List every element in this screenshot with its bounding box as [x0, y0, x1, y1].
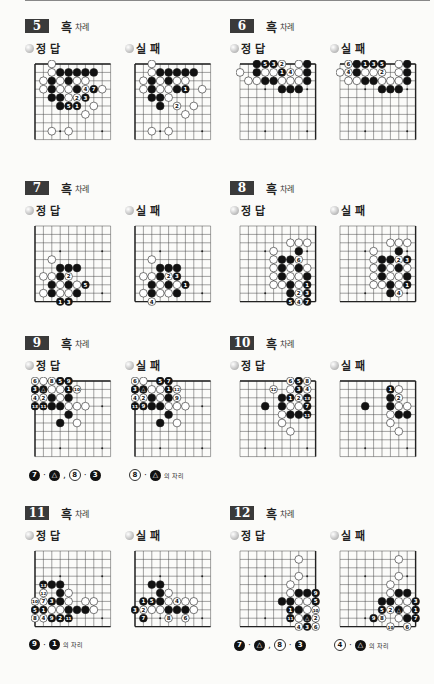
white-stone [286, 272, 294, 280]
black-stone [286, 256, 294, 264]
white-stone [286, 264, 294, 272]
correct-board: 53214 [236, 60, 320, 148]
black-stone: 1 [56, 298, 64, 306]
black-stone: 1 [412, 606, 420, 614]
go-board: 613542 [336, 60, 420, 144]
black-stone [56, 68, 64, 76]
svg-text:9: 9 [141, 403, 145, 409]
black-stone [48, 281, 56, 289]
svg-text:3: 3 [83, 95, 87, 101]
white-stone [148, 256, 156, 264]
svg-text:2: 2 [58, 615, 62, 621]
svg-text:3: 3 [305, 624, 309, 630]
note-suffix: 의 자리 [164, 471, 184, 480]
black-stone: 11 [131, 402, 139, 410]
white-stone [65, 85, 73, 93]
svg-text:5: 5 [380, 607, 384, 613]
white-stone [56, 77, 64, 85]
white-stone: 4 [395, 289, 403, 297]
black-stone: 9 [370, 614, 378, 622]
svg-text:5: 5 [67, 103, 71, 109]
black-stone: 3 [65, 298, 73, 306]
black-stone [303, 589, 311, 597]
fail-board: 12 [336, 377, 420, 465]
white-stone: 6 [286, 377, 294, 385]
white-stone [303, 606, 311, 614]
black-stone: 11 [39, 402, 47, 410]
black-stone: 7 [90, 85, 98, 93]
white-stone [295, 572, 303, 580]
white-stone [39, 377, 47, 385]
black-stone [295, 247, 303, 255]
white-stone [156, 85, 164, 93]
white-stone: 2 [139, 394, 147, 402]
black-stone [378, 597, 386, 605]
black-stone [148, 94, 156, 102]
black-stone [253, 60, 261, 68]
white-stone [295, 239, 303, 247]
white-stone [295, 272, 303, 280]
svg-text:3: 3 [67, 299, 71, 305]
white-stone [295, 614, 303, 622]
black-stone [65, 77, 73, 85]
white-stone [253, 77, 261, 85]
black-stone [148, 289, 156, 297]
white-stone [48, 385, 56, 393]
svg-text:5: 5 [288, 299, 292, 305]
white-stone [148, 385, 156, 393]
white-stone [244, 77, 252, 85]
white-stone: 4 [173, 597, 181, 605]
black-stone [403, 68, 411, 76]
white-stone: 12 [39, 589, 47, 597]
svg-text:8: 8 [305, 378, 309, 384]
bullet-ball-icon [25, 531, 34, 540]
black-stone: 7 [303, 402, 311, 410]
black-stone [386, 597, 394, 605]
black-stone-icon: △ [150, 470, 161, 481]
bullet-ball-icon [125, 361, 134, 370]
black-stone [395, 411, 403, 419]
white-stone [395, 77, 403, 85]
svg-text:7: 7 [41, 598, 45, 604]
black-stone-icon: 1 [49, 639, 60, 650]
svg-text:2: 2 [380, 69, 384, 75]
white-stone [48, 127, 56, 135]
white-stone [56, 281, 64, 289]
black-stone [173, 289, 181, 297]
svg-text:4: 4 [33, 395, 37, 401]
black-stone: 3 [48, 597, 56, 605]
black-stone: 1 [286, 606, 294, 614]
black-stone [56, 272, 64, 280]
svg-text:5: 5 [83, 282, 87, 288]
move-note: 4·△의 자리 [334, 639, 389, 651]
svg-text:11: 11 [66, 616, 72, 621]
black-stone [48, 77, 56, 85]
failure-label: 실 패 [125, 527, 160, 543]
black-stone [253, 68, 261, 76]
black-stone: 3 [412, 597, 420, 605]
svg-text:11: 11 [132, 404, 138, 409]
black-stone [370, 77, 378, 85]
problem-8: 8흑차례정 답실 패61235472314 [230, 180, 430, 196]
black-stone [303, 272, 311, 280]
go-board: 352△1987106 [336, 547, 420, 631]
black-stone [48, 289, 56, 297]
go-board: 2314 [336, 222, 420, 306]
go-board: 15432786 [131, 547, 215, 631]
black-stone [403, 614, 411, 622]
black-stone [90, 68, 98, 76]
white-stone [278, 281, 286, 289]
white-stone [165, 597, 173, 605]
svg-text:5: 5 [380, 61, 384, 67]
black-stone: 1 [286, 394, 294, 402]
svg-text:6: 6 [346, 61, 350, 67]
white-stone [295, 281, 303, 289]
white-stone [156, 77, 164, 85]
fail-board: 2314 [336, 222, 420, 310]
white-stone [286, 427, 294, 435]
white-stone [48, 256, 56, 264]
black-stone [403, 411, 411, 419]
correct-answer-label: 정 답 [25, 357, 60, 373]
svg-text:2: 2 [41, 395, 45, 401]
problem-number: 10 [230, 336, 254, 350]
